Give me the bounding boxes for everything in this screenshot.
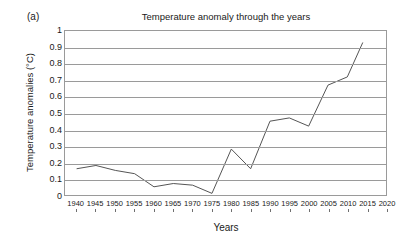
- x-tickmark: [329, 209, 330, 212]
- gridline: [65, 48, 386, 49]
- x-tickmark: [173, 209, 174, 212]
- y-tick-label: 0.6: [40, 92, 62, 101]
- x-tickmark: [192, 209, 193, 212]
- gridline: [65, 81, 386, 82]
- data-line-svg: [65, 31, 386, 195]
- x-tickmark: [290, 209, 291, 212]
- gridline: [65, 180, 386, 181]
- y-tick-label: 0.5: [40, 109, 62, 118]
- y-tick-label: 0.4: [40, 126, 62, 135]
- x-tickmark: [154, 209, 155, 212]
- gridline: [65, 164, 386, 165]
- x-tickmark: [95, 209, 96, 212]
- plot-area: [64, 30, 387, 196]
- y-tick-label: 0.7: [40, 76, 62, 85]
- gridline: [65, 147, 386, 148]
- y-axis-tick-labels: 00.10.20.30.40.50.60.70.80.91: [38, 30, 62, 196]
- gridline: [65, 64, 386, 65]
- gridline: [65, 97, 386, 98]
- y-tick-label: 0.9: [40, 43, 62, 52]
- gridline: [65, 131, 386, 132]
- x-axis-title: Years: [64, 222, 388, 234]
- chart-figure: (a) Temperature anomaly through the year…: [0, 0, 414, 246]
- x-tickmark: [368, 209, 369, 212]
- x-axis-tick-labels: 1940194519501955196019651970197519801985…: [0, 199, 414, 211]
- x-tickmark: [348, 209, 349, 212]
- gridline: [65, 114, 386, 115]
- chart-title: Temperature anomaly through the years: [64, 11, 388, 23]
- temperature-anomaly-line: [77, 42, 363, 193]
- x-tickmark: [76, 209, 77, 212]
- x-tick-label: 2020: [372, 199, 402, 209]
- y-tick-label: 0.1: [40, 175, 62, 184]
- y-tick-label: 1: [40, 26, 62, 35]
- x-tickmark: [212, 209, 213, 212]
- x-tickmark: [134, 209, 135, 212]
- y-axis-title: Temperature anomalies (°C): [24, 28, 35, 198]
- x-tickmark: [270, 209, 271, 212]
- x-tickmark: [309, 209, 310, 212]
- x-tickmark: [387, 209, 388, 212]
- x-tickmark: [251, 209, 252, 212]
- y-tick-label: 0.8: [40, 59, 62, 68]
- x-tickmark: [115, 209, 116, 212]
- y-tick-label: 0.2: [40, 159, 62, 168]
- x-tickmark: [231, 209, 232, 212]
- panel-label: (a): [27, 11, 39, 23]
- y-tick-label: 0.3: [40, 142, 62, 151]
